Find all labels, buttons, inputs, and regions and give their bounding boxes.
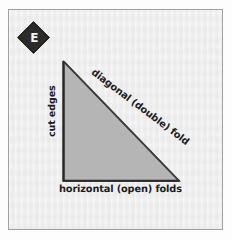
label-horizontal-open-folds: horizontal (open) folds [59,185,182,195]
diamond-badge-icon: E [18,22,50,54]
figure-root: cut edges diagonal (double) fold horizon… [0,0,232,240]
panel-letter: E [18,22,50,54]
label-cut-edges: cut edges [48,85,58,137]
figure-frame: cut edges diagonal (double) fold horizon… [8,9,223,230]
